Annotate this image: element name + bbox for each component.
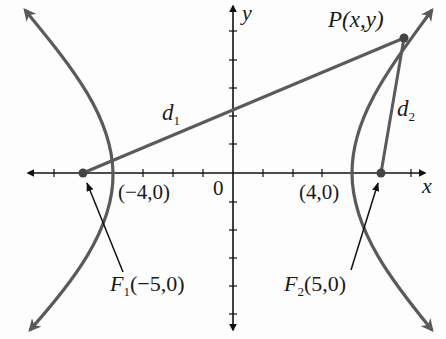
focus-f1-point bbox=[79, 169, 88, 178]
hyperbola-diagram: y x 0 (−4,0) (4,0) P(x,y) d1 d2 F1(−5,0)… bbox=[0, 0, 446, 339]
d1-name: d bbox=[162, 100, 174, 125]
d2-subscript: 2 bbox=[409, 109, 416, 124]
focus-f1-label: F1(−5,0) bbox=[110, 273, 185, 295]
focus-f2-point bbox=[377, 169, 386, 178]
y-axis-label: y bbox=[242, 2, 252, 24]
f2-name: F bbox=[284, 271, 297, 296]
focus-f2-label: F2(5,0) bbox=[284, 273, 346, 295]
f2-subscript: 2 bbox=[297, 284, 304, 299]
point-p bbox=[400, 34, 409, 43]
y-axis bbox=[229, 6, 237, 330]
point-p-label: P(x,y) bbox=[328, 8, 384, 31]
d2-name: d bbox=[397, 96, 409, 121]
d2-label: d2 bbox=[397, 97, 415, 120]
x-axis-label: x bbox=[422, 175, 432, 197]
f1-name: F bbox=[110, 271, 123, 296]
f1-coords: (−5,0) bbox=[130, 271, 185, 296]
vertex-right-label: (4,0) bbox=[299, 182, 339, 203]
d1-subscript: 1 bbox=[174, 113, 181, 128]
vertex-left-label: (−4,0) bbox=[118, 182, 170, 203]
diagram-canvas bbox=[0, 0, 446, 339]
f1-subscript: 1 bbox=[123, 284, 130, 299]
d1-label: d1 bbox=[162, 101, 180, 124]
d1-segment bbox=[83, 38, 404, 173]
hyperbola-left-branch bbox=[25, 10, 113, 330]
origin-label: 0 bbox=[213, 178, 224, 199]
f2-coords: (5,0) bbox=[304, 271, 346, 296]
hyperbola-right-branch bbox=[352, 10, 432, 330]
